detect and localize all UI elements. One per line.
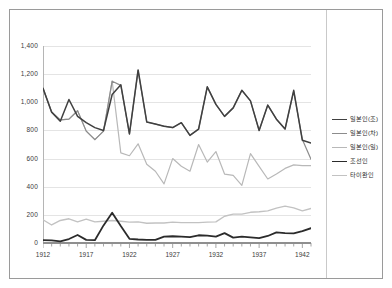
series-line (43, 213, 311, 242)
legend-swatch-line-icon (332, 147, 347, 148)
y-axis-tick-label: 0 (34, 239, 38, 246)
chart-legend: 일본인(조)일본인(차)일본인(일)조선인타이완인 (332, 112, 390, 182)
legend-item[interactable]: 타이완인 (332, 168, 390, 182)
y-axis-tick-label: 1,400 (21, 42, 38, 49)
series-lines (43, 46, 311, 243)
x-axis-tick-label: 1942 (295, 251, 309, 258)
legend-swatch-line-icon (332, 161, 347, 162)
legend-item-label: 일본인(차) (350, 130, 378, 136)
y-axis-tick-label: 600 (27, 155, 38, 162)
plot-area (43, 46, 311, 243)
x-axis-tick-label: 1912 (36, 251, 50, 258)
chart-figure: 02004006008001,0001,2001,400 19121917192… (0, 0, 392, 288)
y-axis-tick-label: 400 (27, 183, 38, 190)
legend-item-label: 조선인 (350, 158, 368, 164)
legend-swatch-line-icon (332, 119, 347, 120)
x-axis-tick-label: 1917 (79, 251, 93, 258)
series-line (43, 206, 311, 225)
legend-item[interactable]: 일본인(조) (332, 112, 390, 126)
series-line (43, 71, 311, 160)
x-axis-tick-label: 1932 (209, 251, 223, 258)
y-axis-tick-label: 1,200 (21, 70, 38, 77)
legend-item[interactable]: 일본인(차) (332, 126, 390, 140)
x-axis-tick-label: 1927 (165, 251, 179, 258)
legend-item[interactable]: 조선인 (332, 154, 390, 168)
x-axis-tick-label: 1922 (122, 251, 136, 258)
legend-divider (326, 10, 327, 278)
y-axis-tick-label: 200 (27, 211, 38, 218)
x-axis-tick-labels: 1912191719221927193219371942 (43, 249, 311, 263)
x-axis-tick-label: 1937 (252, 251, 266, 258)
legend-item-label: 일본인(일) (350, 144, 378, 150)
series-line (43, 81, 311, 185)
series-line (43, 70, 311, 143)
legend-item-label: 일본인(조) (350, 116, 378, 122)
legend-swatch-line-icon (332, 175, 347, 176)
legend-swatch-line-icon (332, 133, 347, 134)
y-axis-tick-labels: 02004006008001,0001,2001,400 (0, 46, 38, 243)
legend-item[interactable]: 일본인(일) (332, 140, 390, 154)
y-axis-tick-label: 800 (27, 126, 38, 133)
legend-item-label: 타이완인 (350, 172, 374, 178)
y-axis-tick-label: 1,000 (21, 98, 38, 105)
